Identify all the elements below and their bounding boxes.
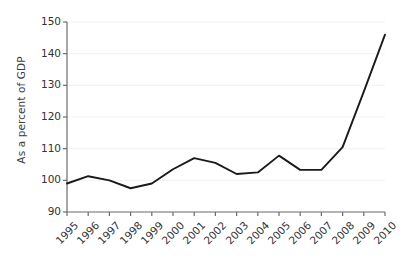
y-tick-label: 110 — [27, 143, 61, 154]
y-tick-label: 100 — [27, 174, 61, 185]
gridlines — [67, 22, 385, 180]
y-tick-label: 90 — [27, 206, 61, 217]
y-tick-label: 140 — [27, 48, 61, 59]
y-tick-label: 120 — [27, 111, 61, 122]
y-tick-label: 150 — [27, 16, 61, 27]
y-tick-label: 130 — [27, 79, 61, 90]
data-series-line — [67, 35, 385, 189]
x-axis-tick-marks — [67, 212, 385, 216]
chart-container: As a percent of GDP 90100110120130140150… — [0, 0, 404, 264]
